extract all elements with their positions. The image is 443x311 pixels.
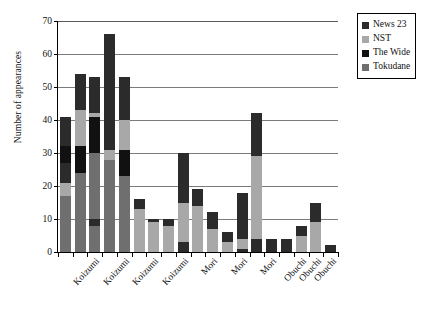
bar-segment xyxy=(310,203,321,223)
stacked-bar[interactable] xyxy=(119,77,130,252)
bar-segment xyxy=(75,110,86,146)
bar-slot xyxy=(205,21,220,252)
bar-segment xyxy=(251,156,262,238)
legend-item-label: Tokudane xyxy=(373,62,410,72)
stacked-bar[interactable] xyxy=(148,219,159,252)
bar-segment xyxy=(251,113,262,156)
bar-slot xyxy=(191,21,206,252)
bar-segment xyxy=(89,226,100,252)
stacked-bar[interactable] xyxy=(60,117,71,252)
chart-legend: News 23NSTThe WideTokudane xyxy=(357,13,416,79)
bar-segment xyxy=(89,219,100,226)
stacked-bar[interactable] xyxy=(310,203,321,253)
stacked-bar[interactable] xyxy=(75,74,86,252)
bar-slot xyxy=(323,21,338,252)
stacked-bar[interactable] xyxy=(222,232,233,252)
bar-segment xyxy=(60,163,71,183)
stacked-bar[interactable] xyxy=(251,113,262,252)
y-axis-tick-label: 10 xyxy=(43,214,53,224)
bar-segment xyxy=(119,176,130,252)
stacked-bar[interactable] xyxy=(281,239,292,252)
bar-slot xyxy=(279,21,294,252)
legend-swatch-icon xyxy=(362,36,369,43)
bar-slot xyxy=(161,21,176,252)
bar-segment xyxy=(104,160,115,252)
stacked-bar[interactable] xyxy=(178,153,189,252)
stacked-bar[interactable] xyxy=(296,226,307,252)
bar-segment xyxy=(148,222,159,252)
legend-swatch-icon xyxy=(362,64,369,71)
bar-segment xyxy=(163,226,174,252)
legend-swatch-icon xyxy=(362,22,369,29)
bar-segment xyxy=(119,150,130,176)
bar-segment xyxy=(325,245,336,252)
bar-segment xyxy=(222,232,233,242)
stacked-bar[interactable] xyxy=(266,239,277,252)
bar-segment xyxy=(237,193,248,239)
legend-item[interactable]: Tokudane xyxy=(362,60,410,74)
stacked-bar[interactable] xyxy=(89,77,100,252)
bar-segment xyxy=(119,77,130,120)
bar-segment xyxy=(237,239,248,249)
x-axis-tick-label: Mori xyxy=(199,256,219,277)
bar-segment xyxy=(163,219,174,226)
bar-slot xyxy=(235,21,250,252)
bar-segment xyxy=(192,189,203,205)
bar-series-container xyxy=(58,21,338,252)
bar-segment xyxy=(178,203,189,243)
y-axis-tick-label: 30 xyxy=(43,148,53,158)
x-axis-tick-label: Mori xyxy=(229,256,249,277)
bar-segment xyxy=(89,117,100,153)
bar-slot xyxy=(176,21,191,252)
bar-slot xyxy=(220,21,235,252)
bar-segment xyxy=(296,226,307,236)
x-axis-tick-label: Koizumi xyxy=(101,256,131,287)
bar-segment xyxy=(60,183,71,196)
bar-slot xyxy=(308,21,323,252)
y-axis-tick-label: 40 xyxy=(43,115,53,125)
bar-slot xyxy=(73,21,88,252)
legend-item[interactable]: NST xyxy=(362,32,410,46)
legend-item[interactable]: News 23 xyxy=(362,18,410,32)
y-axis-tick-label: 20 xyxy=(43,181,53,191)
stacked-bar[interactable] xyxy=(325,245,336,252)
bar-slot xyxy=(250,21,265,252)
bar-segment xyxy=(60,117,71,147)
y-axis-title: Number of appearances xyxy=(13,17,23,177)
x-axis-tick-label: Mori xyxy=(258,256,278,277)
bar-segment xyxy=(178,242,189,252)
bar-segment xyxy=(207,212,218,228)
legend-item[interactable]: The Wide xyxy=(362,46,410,60)
bar-segment xyxy=(310,222,321,252)
bar-segment xyxy=(134,199,145,209)
stacked-bar[interactable] xyxy=(207,212,218,252)
bar-slot xyxy=(132,21,147,252)
bar-segment xyxy=(222,242,233,252)
y-axis-tick-label: 0 xyxy=(47,247,52,257)
bar-segment xyxy=(192,206,203,252)
y-axis-tick-label: 60 xyxy=(43,49,53,59)
bar-segment xyxy=(104,150,115,160)
bar-slot xyxy=(102,21,117,252)
bar-segment xyxy=(207,229,218,252)
stacked-bar[interactable] xyxy=(237,193,248,252)
bar-segment xyxy=(281,239,292,252)
plot-area: 010203040506070 xyxy=(57,21,338,253)
stacked-bar[interactable] xyxy=(134,199,145,252)
stacked-bar[interactable] xyxy=(104,34,115,252)
bar-segment xyxy=(60,146,71,162)
bar-segment xyxy=(266,239,277,252)
bar-segment xyxy=(178,153,189,203)
bar-slot xyxy=(117,21,132,252)
chart-root: Number of appearances 010203040506070 Ko… xyxy=(0,0,443,311)
stacked-bar[interactable] xyxy=(163,219,174,252)
stacked-bar[interactable] xyxy=(192,189,203,252)
x-axis-tick-label: Koizumi xyxy=(130,256,160,287)
x-axis-tick-label: Koizumi xyxy=(71,256,101,287)
legend-item-label: News 23 xyxy=(373,20,407,30)
bar-segment xyxy=(75,146,86,172)
x-axis-tick-label: Koizumi xyxy=(160,256,190,287)
bar-segment xyxy=(251,239,262,252)
y-axis-tick-label: 70 xyxy=(43,16,53,26)
y-axis-tick-label: 50 xyxy=(43,82,53,92)
